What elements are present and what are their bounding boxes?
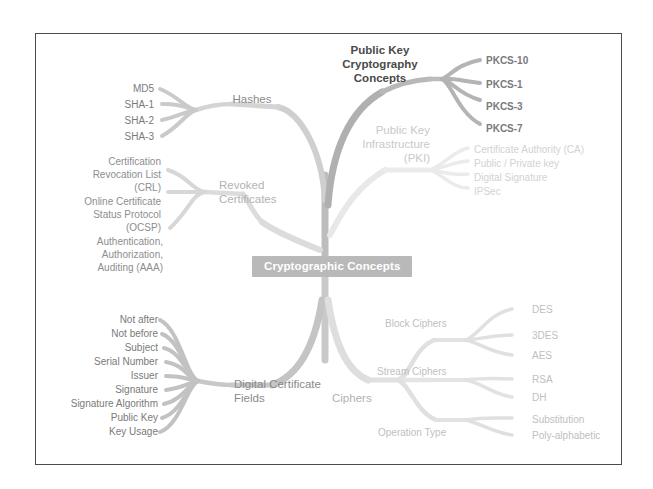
leaf-ocsp-line2[interactable]: Status Protocol	[60, 209, 161, 221]
leaf-aaa-line3[interactable]: Auditing (AAA)	[62, 262, 163, 274]
leaf-ocsp-line1[interactable]: Online Certificate	[60, 196, 161, 208]
leaf-signature[interactable]: Signature	[40, 384, 158, 396]
branch-label-ciphers[interactable]: Ciphers	[332, 392, 392, 406]
leaf-aes[interactable]: AES	[532, 350, 632, 362]
leaf-serial-number[interactable]: Serial Number	[40, 356, 158, 368]
branch-label-pkcc-line1[interactable]: Public Key	[330, 44, 430, 58]
leaf-substitution[interactable]: Substitution	[532, 414, 632, 426]
leaf-issuer[interactable]: Issuer	[40, 370, 158, 382]
leaf-key-usage[interactable]: Key Usage	[40, 426, 158, 438]
leaf-not-after[interactable]: Not after	[40, 314, 158, 326]
leaf-public-private-key[interactable]: Public / Private key	[474, 158, 624, 170]
branch-label-pkcc-line3[interactable]: Concepts	[330, 72, 430, 86]
leaf-digital-signature[interactable]: Digital Signature	[474, 172, 624, 184]
leaf-crl-line1[interactable]: Certification	[66, 156, 161, 168]
leaf-pkcs-3[interactable]: PKCS-3	[486, 101, 576, 113]
leaf-pkcs-10[interactable]: PKCS-10	[486, 55, 576, 67]
leaf-signature-algorithm[interactable]: Signature Algorithm	[40, 398, 158, 410]
branch-label-pki-line1[interactable]: Public Key	[330, 124, 430, 138]
center-node[interactable]: Cryptographic Concepts	[252, 256, 412, 277]
leaf-3des[interactable]: 3DES	[532, 330, 632, 342]
subbranch-label-operation-type[interactable]: Operation Type	[378, 427, 474, 439]
leaf-rsa[interactable]: RSA	[532, 374, 632, 386]
subbranch-label-stream-ciphers[interactable]: Stream Ciphers	[377, 366, 473, 378]
leaf-subject[interactable]: Subject	[40, 342, 158, 354]
leaf-ocsp-line3[interactable]: (OCSP)	[60, 222, 161, 234]
branch-label-pki-line3[interactable]: (PKI)	[330, 152, 430, 166]
leaf-aaa-line2[interactable]: Authorization,	[62, 249, 163, 261]
leaf-sha-1[interactable]: SHA-1	[86, 99, 154, 111]
leaf-aaa-line1[interactable]: Authentication,	[62, 236, 163, 248]
leaf-pkcs-7[interactable]: PKCS-7	[486, 123, 576, 135]
leaf-sha-3[interactable]: SHA-3	[86, 131, 154, 143]
subbranch-label-block-ciphers[interactable]: Block Ciphers	[385, 318, 475, 330]
leaf-not-before[interactable]: Not before	[40, 328, 158, 340]
branch-label-pkcc-line2[interactable]: Cryptography	[330, 58, 430, 72]
branch-label-revoked-certificates-line2[interactable]: Certificates	[219, 193, 309, 207]
leaf-sha-2[interactable]: SHA-2	[86, 115, 154, 127]
leaf-certificate-authority[interactable]: Certificate Authority (CA)	[474, 144, 624, 156]
leaf-ipsec[interactable]: IPSec	[474, 186, 624, 198]
branch-label-dcf-line2[interactable]: Fields	[234, 392, 344, 406]
branch-label-revoked-certificates-line1[interactable]: Revoked	[219, 179, 309, 193]
leaf-md5[interactable]: MD5	[86, 83, 154, 95]
mindmap-canvas: Cryptographic Concepts Hashes MD5 SHA-1 …	[0, 0, 653, 489]
branch-label-hashes[interactable]: Hashes	[225, 93, 279, 107]
leaf-crl-line2[interactable]: Revocation List	[66, 169, 161, 181]
leaf-poly-alphabetic[interactable]: Poly-alphabetic	[532, 430, 632, 442]
branch-label-dcf-line1[interactable]: Digital Certificate	[234, 378, 344, 392]
branch-label-pki-line2[interactable]: Infrastructure	[330, 138, 430, 152]
leaf-pkcs-1[interactable]: PKCS-1	[486, 79, 576, 91]
leaf-public-key[interactable]: Public Key	[40, 412, 158, 424]
leaf-crl-line3[interactable]: (CRL)	[66, 182, 161, 194]
leaf-dh[interactable]: DH	[532, 392, 632, 404]
leaf-des[interactable]: DES	[532, 304, 632, 316]
